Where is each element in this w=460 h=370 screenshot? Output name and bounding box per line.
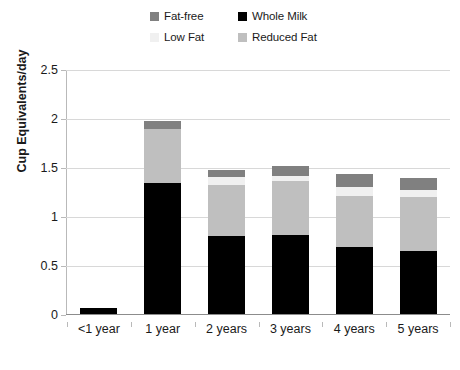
bar-stack[interactable] bbox=[336, 174, 373, 315]
bar-slot bbox=[67, 70, 131, 315]
bar-segment[interactable] bbox=[144, 129, 181, 183]
x-axis-tick-label: 3 years bbox=[258, 322, 322, 336]
legend-item-whole-milk: Whole Milk bbox=[238, 11, 380, 23]
legend-label-fat-free: Fat-free bbox=[164, 11, 203, 23]
bar-slot bbox=[322, 70, 386, 315]
bar-segment[interactable] bbox=[336, 187, 373, 197]
x-axis-tick-label: 1 year bbox=[131, 322, 195, 336]
x-axis-tick-mark bbox=[195, 322, 196, 327]
x-axis-tick-mark bbox=[450, 322, 451, 327]
bar-segment[interactable] bbox=[144, 183, 181, 315]
x-axis-tick-mark bbox=[259, 322, 260, 327]
legend-item-fat-free: Fat-free bbox=[150, 11, 238, 23]
bar-slot bbox=[386, 70, 450, 315]
x-axis-tick-mark bbox=[131, 322, 132, 327]
legend-item-reduced-fat: Reduced Fat bbox=[238, 32, 380, 44]
x-axis-tick-mark bbox=[386, 322, 387, 327]
bar-segment[interactable] bbox=[336, 174, 373, 187]
bar-segment[interactable] bbox=[400, 178, 437, 190]
x-axis-line bbox=[66, 314, 450, 315]
bar-slot bbox=[131, 70, 195, 315]
x-axis-tick-label: <1 year bbox=[67, 322, 131, 336]
y-axis-tick-label: 1.5 bbox=[41, 161, 58, 175]
bar-segment[interactable] bbox=[400, 251, 437, 315]
bar-stack[interactable] bbox=[144, 121, 181, 315]
bar-segment[interactable] bbox=[208, 177, 245, 185]
y-axis-tick-mark bbox=[61, 266, 66, 267]
y-axis-tick-mark bbox=[61, 315, 66, 316]
x-axis-tick-mark bbox=[322, 322, 323, 327]
y-axis-tick-mark bbox=[61, 217, 66, 218]
legend-swatch-reduced-fat-icon bbox=[238, 33, 247, 42]
bar-segment[interactable] bbox=[208, 236, 245, 315]
chart-legend: Fat-free Whole Milk Low Fat Reduced Fat bbox=[150, 6, 380, 48]
bar-segment[interactable] bbox=[208, 170, 245, 177]
y-axis-tick-label: 2 bbox=[51, 112, 58, 126]
plot-area: 00.511.522.5 bbox=[66, 70, 450, 315]
y-axis-title: Cup Equivalents/day bbox=[15, 21, 29, 201]
legend-label-whole-milk: Whole Milk bbox=[252, 11, 307, 23]
x-axis-tick-mark bbox=[67, 322, 68, 327]
legend-swatch-low-fat-icon bbox=[150, 33, 159, 42]
y-axis-tick-label: 0.5 bbox=[41, 259, 58, 273]
bar-segment[interactable] bbox=[272, 235, 309, 315]
x-axis-tick-label: 2 years bbox=[195, 322, 259, 336]
y-axis-tick-mark bbox=[61, 119, 66, 120]
bar-segment[interactable] bbox=[400, 190, 437, 198]
legend-item-low-fat: Low Fat bbox=[150, 32, 238, 44]
x-axis-tick-labels: <1 year1 year2 years3 years4 years5 year… bbox=[67, 322, 450, 336]
bar-segment[interactable] bbox=[208, 185, 245, 236]
legend-swatch-whole-milk-icon bbox=[238, 12, 247, 21]
bar-slot bbox=[258, 70, 322, 315]
bars-layer bbox=[67, 70, 450, 315]
bar-segment[interactable] bbox=[144, 121, 181, 129]
y-axis-tick-label: 2.5 bbox=[41, 63, 58, 77]
legend-label-low-fat: Low Fat bbox=[164, 32, 204, 44]
stacked-bar-chart: Fat-free Whole Milk Low Fat Reduced Fat … bbox=[0, 0, 460, 370]
bar-segment[interactable] bbox=[272, 181, 309, 235]
bar-segment[interactable] bbox=[336, 196, 373, 247]
x-axis-tick-label: 4 years bbox=[322, 322, 386, 336]
legend-label-reduced-fat: Reduced Fat bbox=[252, 32, 317, 44]
x-axis-tick-label: 5 years bbox=[386, 322, 450, 336]
bar-stack[interactable] bbox=[208, 170, 245, 315]
y-axis-tick-mark bbox=[61, 70, 66, 71]
bar-slot bbox=[195, 70, 259, 315]
y-axis-tick-label: 1 bbox=[51, 210, 58, 224]
y-axis-tick-label: 0 bbox=[51, 308, 58, 322]
bar-stack[interactable] bbox=[400, 178, 437, 315]
y-axis-tick-mark bbox=[61, 168, 66, 169]
bar-segment[interactable] bbox=[336, 247, 373, 315]
bar-segment[interactable] bbox=[272, 166, 309, 176]
bar-stack[interactable] bbox=[272, 166, 309, 315]
bar-segment[interactable] bbox=[400, 197, 437, 251]
legend-swatch-fat-free-icon bbox=[150, 12, 159, 21]
